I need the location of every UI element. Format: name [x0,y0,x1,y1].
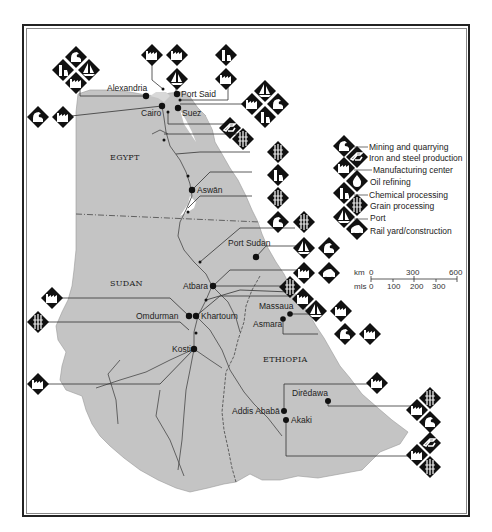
country-label-ethiopia: ETHIOPIA [263,355,308,364]
legend-label-rail: Rail yard/construction [370,226,452,236]
industry-map: EGYPT SUDAN ETHIOPIA [0,0,492,532]
city-dot-port-said[interactable] [174,91,180,97]
city-label-massaua: Massaua [259,301,294,311]
scale-km-tick-300: 300 [406,268,420,277]
city-dot-atbara[interactable] [210,283,216,289]
legend-label-iron-steel: Iron and steel production [369,153,463,163]
legend-label-chemical: Chemical processing [369,190,448,200]
country-label-egypt: EGYPT [110,153,140,162]
city-label-kosti: Kosti [172,344,191,354]
scale-km-tick-0: 0 [369,268,374,277]
city-dot-addis-ababa[interactable] [281,408,287,414]
manufacturing-icon[interactable] [52,106,74,128]
city-label-khartoum: Khartoum [201,311,238,321]
scale-mls-label: mls [354,282,366,291]
mining-icon[interactable] [27,106,49,128]
scale-km-label: km [354,268,365,277]
city-dot-diredawa[interactable] [325,398,331,404]
city-label-diredawa: Dirēdawa [292,388,328,398]
manufacturing-icon[interactable] [141,44,163,66]
city-label-port-said: Port Said [181,89,216,99]
city-dot-massaua[interactable] [287,311,293,317]
legend-label-mining: Mining and quarrying [369,142,449,152]
scale-mls-tick-0: 0 [369,282,374,291]
city-label-atbara: Atbara [183,281,208,291]
city-label-akaki: Akaki [291,415,312,425]
city-dot-aswan[interactable] [189,187,195,193]
city-label-port-sudan: Port Sudan [228,238,271,248]
city-dot-omdurman[interactable] [186,313,192,319]
city-label-addis-ababa: Addis Ababā [232,406,280,416]
manufacturing-icon[interactable] [215,68,237,90]
legend-label-manufacturing: Manufacturing center [373,165,453,175]
city-dot-akaki[interactable] [283,417,289,423]
country-label-sudan: SUDAN [110,279,143,288]
city-label-cairo: Cairo [141,108,162,118]
city-dot-khartoum[interactable] [193,313,199,319]
city-label-asmara: Asmara [253,319,283,329]
city-dot-port-sudan[interactable] [253,254,259,260]
city-dot-suez[interactable] [175,105,181,111]
scale-mls-tick-200: 200 [410,282,424,291]
scale-mls-tick-100: 100 [387,282,401,291]
legend-label-oil-refining: Oil refining [370,177,411,187]
manufacturing-icon[interactable] [166,44,188,66]
city-dot-alexandria[interactable] [143,93,149,99]
city-label-aswan: Aswān [197,185,223,195]
grain-icon[interactable] [27,311,49,333]
city-dot-kosti[interactable] [191,346,197,352]
manufacturing-icon[interactable] [41,287,63,309]
legend-label-grain: Grain processing [370,201,435,211]
port-icon[interactable] [166,68,188,90]
city-label-suez: Suez [182,108,201,118]
city-label-omdurman: Omdurman [136,311,179,321]
scale-mls-tick-300: 300 [432,282,446,291]
city-label-alexandria: Alexandria [107,83,147,93]
legend-label-port: Port [370,213,386,223]
chemical-icon[interactable] [215,44,237,66]
scale-km-tick-600: 600 [449,268,463,277]
manufacturing-icon[interactable] [27,373,49,395]
